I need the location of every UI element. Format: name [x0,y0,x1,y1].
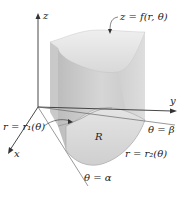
leader-surface [110,17,118,30]
region-label: R [94,131,103,142]
y-axis-label: y [169,95,176,106]
ray-beta-label: θ = β [148,124,175,135]
x-axis-label: x [14,148,20,159]
z-axis [36,13,41,107]
outer-curve-label: r = r₂(θ) [125,148,167,159]
ray-alpha-label: θ = α [84,172,112,183]
z-axis-label: z [42,10,49,21]
z-axis-arrowhead-icon [36,13,41,19]
inner-curve-label: r = r₁(θ) [3,121,45,132]
polar-volume-diagram: z y x z = f(r, θ) R r = r₁(θ) r = r₂(θ) … [0,0,182,197]
y-axis-arrowhead-icon [170,109,177,114]
solid-inner-wall [50,42,58,126]
surface-label: z = f(r, θ) [119,11,168,22]
